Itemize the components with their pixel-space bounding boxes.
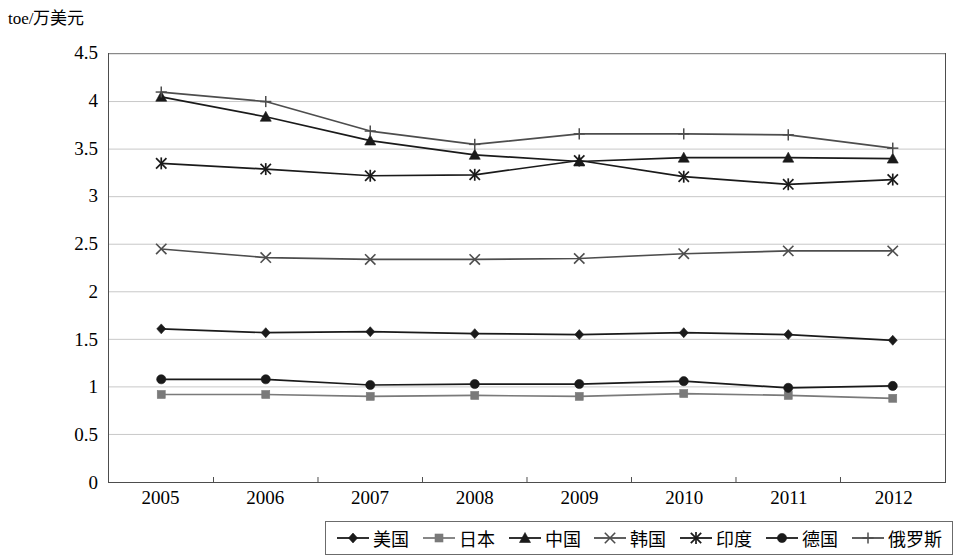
diamond-marker [784, 330, 793, 340]
circle-marker [575, 379, 584, 388]
y-axis-tick-labels: 4.543.532.521.510.50 [26, 0, 98, 557]
y-axis-tick-2-5: 2.5 [32, 233, 98, 255]
y-axis-tick-0-5: 0.5 [32, 424, 98, 446]
legend-label: 中国 [545, 525, 581, 551]
diamond-marker [366, 327, 375, 337]
diamond-marker [157, 324, 166, 334]
cross-x-marker [593, 530, 627, 546]
x-axis-tick-2012: 2012 [875, 487, 913, 509]
diamond-marker [679, 328, 688, 338]
y-axis-tick-4: 4 [32, 90, 98, 112]
circle-marker [888, 381, 897, 390]
x-axis-tick-2010: 2010 [665, 487, 703, 509]
y-axis-tick-4-5: 4.5 [32, 42, 98, 64]
x-axis-ticks [214, 477, 841, 482]
plus-marker [156, 86, 167, 97]
square-marker [680, 390, 688, 398]
asterisk-marker [679, 530, 713, 546]
y-axis-tick-0: 0 [32, 472, 98, 494]
circle-marker [366, 380, 375, 389]
y-axis-tick-2: 2 [32, 281, 98, 303]
y-axis-tick-3-5: 3.5 [32, 138, 98, 160]
diamond-marker [575, 330, 584, 340]
legend-item-6[interactable]: 俄罗斯 [851, 525, 942, 551]
legend-item-1[interactable]: 日本 [422, 525, 495, 551]
circle-marker [784, 383, 793, 392]
y-axis-tick-1: 1 [32, 376, 98, 398]
plot-area [108, 53, 946, 483]
legend-label: 韩国 [630, 525, 666, 551]
x-axis-tick-2006: 2006 [246, 487, 284, 509]
y-axis-tick-3: 3 [32, 185, 98, 207]
square-marker [575, 392, 583, 400]
legend-label: 日本 [459, 525, 495, 551]
diamond-marker [349, 533, 358, 543]
plus-marker [678, 128, 689, 139]
circle-marker [157, 375, 166, 384]
diamond-marker [261, 328, 270, 338]
plus-marker [365, 125, 376, 136]
square-marker [435, 534, 443, 542]
plus-marker [469, 139, 480, 150]
x-axis-tick-2007: 2007 [351, 487, 389, 509]
square-marker [157, 391, 165, 399]
legend-item-2[interactable]: 中国 [508, 525, 581, 551]
series-diamond [157, 324, 897, 345]
x-axis-tick-2011: 2011 [770, 487, 807, 509]
legend-item-4[interactable]: 印度 [679, 525, 752, 551]
legend-item-5[interactable]: 德国 [765, 525, 838, 551]
energy-intensity-line-chart: toe/万美元 4.543.532.521.510.50 20052006200… [0, 0, 958, 557]
triangle-marker [508, 530, 542, 546]
legend-label: 印度 [716, 525, 752, 551]
circle-marker [777, 533, 786, 542]
diamond-marker [470, 329, 479, 339]
plus-marker [260, 96, 271, 107]
circle-marker [261, 375, 270, 384]
plus-marker [783, 129, 794, 140]
series-circle [157, 375, 898, 393]
plus-marker [574, 128, 585, 139]
chart-legend: 美国日本中国韩国印度德国俄罗斯 [325, 521, 953, 555]
series-cross-x [156, 244, 898, 265]
x-axis-tick-2005: 2005 [141, 487, 179, 509]
diamond-marker [336, 530, 370, 546]
circle-marker [765, 530, 799, 546]
square-marker [366, 392, 374, 400]
legend-label: 德国 [802, 525, 838, 551]
legend-item-0[interactable]: 美国 [336, 525, 409, 551]
legend-label: 俄罗斯 [888, 525, 942, 551]
plus-marker [851, 530, 885, 546]
square-marker [262, 391, 270, 399]
plus-marker [887, 143, 898, 154]
x-axis-tick-2008: 2008 [456, 487, 494, 509]
plus-marker [862, 532, 873, 543]
plot-svg [109, 54, 945, 482]
circle-marker [470, 379, 479, 388]
square-marker [422, 530, 456, 546]
x-axis-tick-2009: 2009 [560, 487, 598, 509]
square-marker [889, 394, 897, 402]
diamond-marker [888, 335, 897, 345]
y-axis-tick-1-5: 1.5 [32, 329, 98, 351]
legend-item-3[interactable]: 韩国 [593, 525, 666, 551]
legend-label: 美国 [373, 525, 409, 551]
square-marker [471, 391, 479, 399]
circle-marker [679, 377, 688, 386]
